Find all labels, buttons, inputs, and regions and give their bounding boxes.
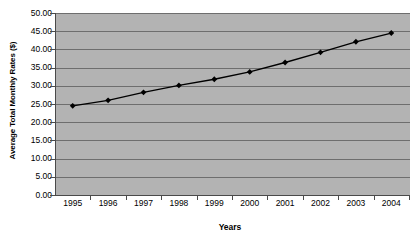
- x-tick-label: 2003: [338, 199, 373, 208]
- y-tick-mark: [50, 68, 55, 69]
- y-tick-label: 45.00: [2, 27, 52, 36]
- gridline: [56, 122, 410, 123]
- x-tick-label: 1996: [90, 199, 125, 208]
- gridline: [56, 140, 410, 141]
- y-tick-mark: [50, 177, 55, 178]
- x-tick-label: 1998: [161, 199, 196, 208]
- x-tick-mark: [409, 195, 410, 200]
- x-tick-label: 2000: [232, 199, 267, 208]
- y-tick-label: 20.00: [2, 118, 52, 127]
- y-tick-mark: [50, 13, 55, 14]
- line-chart: Average Total Monthly Rates ($) 0.005.00…: [0, 0, 415, 236]
- gridline: [56, 31, 410, 32]
- y-tick-label: 35.00: [2, 63, 52, 72]
- x-tick-label: 2004: [374, 199, 409, 208]
- y-tick-mark: [50, 159, 55, 160]
- x-tick-label: 2002: [303, 199, 338, 208]
- y-tick-label: 15.00: [2, 136, 52, 145]
- x-axis-title: Years: [55, 222, 405, 232]
- plot-area: [55, 13, 410, 196]
- y-tick-label: 25.00: [2, 100, 52, 109]
- gridline: [56, 68, 410, 69]
- y-tick-label: 10.00: [2, 154, 52, 163]
- gridline: [56, 177, 410, 178]
- x-tick-label: 1999: [197, 199, 232, 208]
- y-tick-label: 5.00: [2, 172, 52, 181]
- gridline: [56, 104, 410, 105]
- gridline: [56, 159, 410, 160]
- x-tick-label: 1995: [55, 199, 90, 208]
- y-tick-label: 30.00: [2, 81, 52, 90]
- x-tick-label: 1997: [126, 199, 161, 208]
- gridline: [56, 13, 410, 14]
- y-tick-mark: [50, 104, 55, 105]
- y-tick-label: 40.00: [2, 45, 52, 54]
- y-tick-label: 50.00: [2, 9, 52, 18]
- gridline: [56, 86, 410, 87]
- y-tick-mark: [50, 140, 55, 141]
- y-tick-mark: [50, 86, 55, 87]
- y-tick-mark: [50, 122, 55, 123]
- y-tick-mark: [50, 195, 55, 196]
- x-tick-label: 2001: [267, 199, 302, 208]
- y-tick-mark: [50, 49, 55, 50]
- y-tick-label: 0.00: [2, 191, 52, 200]
- gridline: [56, 49, 410, 50]
- y-tick-mark: [50, 31, 55, 32]
